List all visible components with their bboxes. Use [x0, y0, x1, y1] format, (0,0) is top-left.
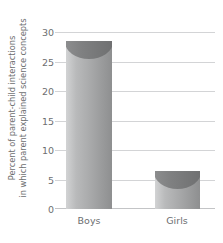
chart-figure: Percent of parent-child interactions in …	[0, 0, 223, 243]
y-axis-title-line1: Percent of parent-child interactions	[7, 18, 18, 197]
x-category-label-girls: Girls	[166, 215, 188, 226]
bar-girls-cap	[155, 171, 200, 189]
y-tick-label-5: 5	[24, 174, 54, 185]
y-tick-label-10: 10	[24, 145, 54, 156]
bar-boys-cap	[66, 41, 112, 59]
bar-girls	[155, 171, 200, 209]
x-category-label-boys: Boys	[78, 215, 101, 226]
y-tick-label-20: 20	[24, 86, 54, 97]
y-tick-label-0: 0	[24, 204, 54, 215]
y-tick-label-30: 30	[24, 27, 54, 38]
y-axis-title-line2: in which parent explained science concep…	[18, 18, 29, 197]
gridline-30	[55, 32, 215, 33]
y-tick-label-15: 15	[24, 115, 54, 126]
plot-area	[55, 32, 215, 209]
bar-boys	[66, 41, 112, 209]
y-tick-label-25: 25	[24, 56, 54, 67]
